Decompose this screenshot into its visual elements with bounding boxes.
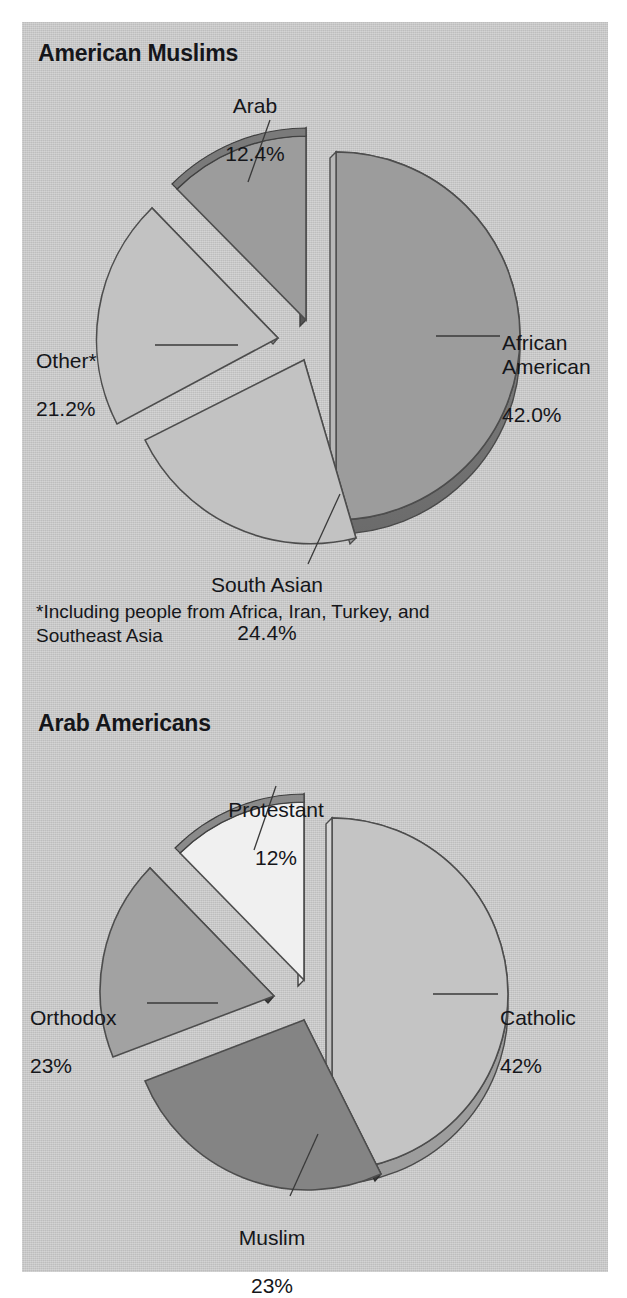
callout-south-asian: South Asian 24.4%: [172, 549, 362, 669]
callout-catholic-value: 42%: [500, 1054, 620, 1078]
chart-1-title: American Muslims: [38, 40, 238, 67]
callout-arab: Arab 12.4%: [190, 70, 320, 190]
callout-arab-value: 12.4%: [190, 142, 320, 166]
callout-orthodox-value: 23%: [30, 1054, 150, 1078]
callout-orthodox: Orthodox 23%: [30, 982, 150, 1102]
callout-african-american-value: 42.0%: [502, 403, 622, 427]
callout-muslim-value: 23%: [202, 1274, 342, 1298]
callout-other-name: Other*: [36, 349, 154, 373]
callout-african-american-name: African American: [502, 331, 622, 379]
callout-south-asian-name: South Asian: [172, 573, 362, 597]
figure-panel: American Muslims: [22, 22, 608, 1272]
callout-catholic: Catholic 42%: [500, 982, 620, 1102]
chart-2-title: Arab Americans: [38, 710, 211, 737]
callout-catholic-name: Catholic: [500, 1006, 620, 1030]
callout-other: Other* 21.2%: [36, 325, 154, 445]
callout-protestant-value: 12%: [182, 846, 370, 870]
pie-slice-african-american: [330, 152, 520, 534]
callout-protestant-name: Protestant: [182, 798, 370, 822]
callout-orthodox-name: Orthodox: [30, 1006, 150, 1030]
callout-arab-name: Arab: [190, 94, 320, 118]
callout-other-value: 21.2%: [36, 397, 154, 421]
callout-muslim-name: Muslim: [202, 1226, 342, 1250]
callout-muslim: Muslim 23%: [202, 1202, 342, 1298]
callout-south-asian-value: 24.4%: [172, 621, 362, 645]
callout-african-american: African American 42.0%: [502, 307, 622, 451]
callout-protestant: Protestant 12%: [182, 774, 370, 894]
